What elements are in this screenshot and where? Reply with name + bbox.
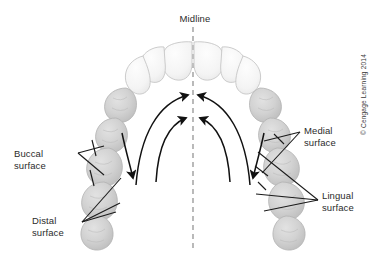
arrow-medial-right-inner	[200, 118, 230, 182]
tooth-first-premolar-left	[105, 88, 137, 122]
posterior-teeth-right-group	[249, 88, 305, 250]
copyright-notice: © Cengage Learning 2014	[360, 54, 367, 135]
figure-canvas: Midline Buccal surface Distal surface Me…	[0, 0, 390, 263]
arrow-medial-left-outer	[136, 95, 188, 185]
label-distal-surface: Distal surface	[32, 215, 98, 238]
tooth-first-premolar-right	[249, 88, 281, 122]
tooth-second-molar-right	[269, 182, 305, 220]
arrow-distal-left	[122, 133, 133, 178]
arrow-medial-right-outer	[198, 95, 250, 185]
label-lingual-surface: Lingual surface	[322, 190, 388, 213]
label-midline: Midline	[163, 13, 227, 25]
tooth-third-molar-right	[273, 216, 305, 250]
label-buccal-surface: Buccal surface	[14, 148, 76, 171]
tooth-first-molar-left	[87, 148, 123, 186]
tooth-central-incisor-right	[194, 42, 224, 80]
tooth-central-incisor-left	[162, 42, 192, 80]
arrow-medial-left-inner	[156, 118, 186, 182]
